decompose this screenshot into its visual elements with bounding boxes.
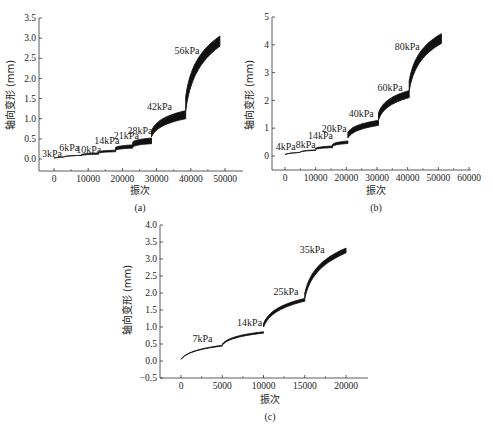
- y-tick-label: 3: [264, 68, 269, 78]
- stage-label: 56kPa: [174, 45, 200, 56]
- stage-label: 35kPa: [300, 244, 326, 255]
- stage-label: 40kPa: [349, 108, 375, 119]
- x-tick-label: 60000: [457, 173, 481, 183]
- series-band-7kPa: [181, 345, 222, 359]
- series-band-25kPa: [264, 298, 305, 327]
- x-tick-label: 20000: [334, 381, 358, 391]
- y-tick-label: 0.0: [24, 154, 36, 164]
- series-band-14kPa: [316, 146, 333, 149]
- figure: 0.00.51.01.52.02.53.03.50100002000030000…: [0, 0, 493, 435]
- chart-panel-b: 01234501000020000300004000050000600004kP…: [264, 12, 481, 183]
- caption-c: (c): [264, 411, 275, 423]
- y-tick-label: 1.0: [24, 114, 36, 124]
- y-tick-label: 1.0: [145, 322, 157, 332]
- chart-panel-a: 0.00.51.01.52.02.53.03.50100002000030000…: [24, 13, 243, 184]
- chart-panel-c: −0.50.00.51.01.52.02.53.03.54.0050001000…: [140, 220, 368, 391]
- stage-label: 42kPa: [147, 101, 173, 112]
- y-tick-label: 3.5: [145, 237, 157, 247]
- series-band-8kPa: [300, 150, 315, 152]
- x-axis-title-b: 振次: [366, 184, 386, 196]
- caption-b: (b): [370, 202, 382, 214]
- y-tick-label: 2.0: [145, 288, 157, 298]
- y-tick-label: 1.5: [145, 305, 157, 315]
- x-tick-label: 40000: [179, 174, 203, 184]
- y-axis-title-a: 轴向变形 (mm): [4, 60, 16, 131]
- y-tick-label: 3.5: [24, 13, 36, 23]
- x-tick-label: 50000: [426, 173, 450, 183]
- x-tick-label: 30000: [365, 173, 389, 183]
- y-tick-label: 1: [264, 123, 269, 133]
- y-tick-label: 4.0: [145, 220, 157, 230]
- series-band-40kPa: [348, 120, 379, 137]
- x-tick-label: 5000: [213, 381, 232, 391]
- y-tick-label: −0.5: [140, 373, 157, 383]
- y-tick-label: 3.0: [24, 33, 36, 43]
- series-band-42kPa: [152, 111, 186, 137]
- y-tick-label: 0.5: [24, 134, 36, 144]
- stage-label: 7kPa: [193, 333, 214, 344]
- x-tick-label: 10000: [252, 381, 276, 391]
- y-axis-title-c: 轴向变形 (mm): [121, 265, 133, 336]
- y-tick-label: 0: [264, 151, 269, 161]
- x-tick-label: 30000: [145, 174, 169, 184]
- y-tick-label: 0.0: [145, 356, 157, 366]
- y-tick-label: 4: [264, 40, 269, 50]
- x-tick-label: 20000: [334, 173, 358, 183]
- x-tick-label: 0: [52, 174, 57, 184]
- y-tick-label: 2.5: [145, 271, 157, 281]
- x-axis-title-c: 振次: [260, 393, 280, 405]
- stage-label: 28kPa: [128, 125, 154, 136]
- series-band-20kPa: [333, 141, 348, 146]
- y-tick-label: 1.5: [24, 94, 36, 104]
- stage-label: 4kPa: [276, 141, 297, 152]
- stage-label: 60kPa: [378, 82, 404, 93]
- y-tick-label: 3.0: [145, 254, 157, 264]
- x-tick-label: 15000: [293, 381, 317, 391]
- x-tick-label: 10000: [76, 174, 100, 184]
- x-tick-label: 0: [283, 173, 288, 183]
- y-tick-label: 2.5: [24, 53, 36, 63]
- stage-label: 14kPa: [237, 317, 263, 328]
- series-band-35kPa: [305, 248, 346, 298]
- stage-label: 25kPa: [273, 286, 299, 297]
- x-axis-title-a: 振次: [130, 184, 150, 196]
- stage-label: 80kPa: [395, 41, 421, 52]
- caption-a: (a): [134, 202, 145, 214]
- series-band-6kPa: [64, 155, 81, 156]
- x-tick-label: 10000: [304, 173, 328, 183]
- x-tick-label: 20000: [111, 174, 135, 184]
- y-tick-label: 0.5: [145, 339, 157, 349]
- x-tick-label: 0: [179, 381, 184, 391]
- y-tick-label: 2.0: [24, 74, 36, 84]
- series-band-60kPa: [379, 91, 410, 120]
- x-tick-label: 40000: [396, 173, 420, 183]
- y-tick-label: 2: [264, 96, 269, 106]
- y-tick-label: 5: [264, 12, 269, 22]
- y-axis-title-b: 轴向变形 (mm): [243, 60, 255, 131]
- series-band-4kPa: [285, 152, 300, 154]
- series-band-14kPa: [222, 332, 263, 345]
- x-tick-label: 50000: [213, 174, 237, 184]
- stage-label: 20kPa: [322, 123, 348, 134]
